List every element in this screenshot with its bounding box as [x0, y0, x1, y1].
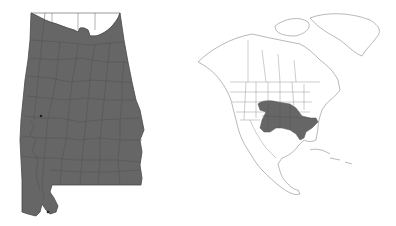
north-america-range-map — [190, 0, 396, 226]
water-feature — [47, 211, 50, 214]
alabama-county-map — [0, 0, 200, 226]
north-america-map-svg — [190, 0, 396, 226]
water-feature — [40, 115, 43, 118]
greenland — [310, 14, 379, 56]
caribbean-islands — [310, 149, 352, 164]
alabama-map-svg — [0, 0, 200, 226]
arctic-islands — [275, 19, 309, 36]
